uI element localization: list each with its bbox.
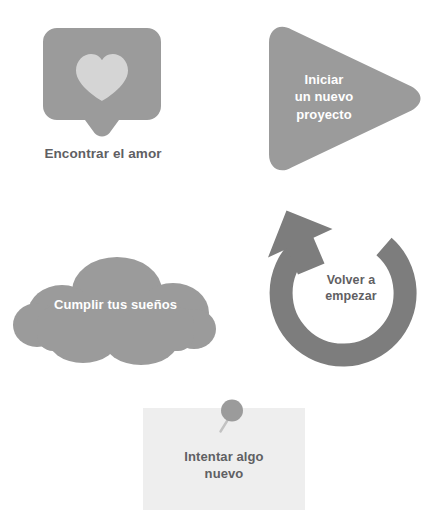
cloud-icon	[13, 255, 216, 365]
item-find-love-label: Encontrar el amor	[18, 146, 188, 161]
push-pin-icon	[211, 398, 245, 438]
item-dreams[interactable]: Cumplir tus sueños	[13, 255, 216, 365]
item-try-new[interactable]: Intentar algo nuevo	[143, 398, 305, 510]
item-find-love[interactable]	[43, 28, 161, 140]
circular-arrow-icon	[266, 208, 424, 366]
speech-bubble-heart-icon	[43, 28, 161, 140]
illustration-canvas: Encontrar el amor Iniciar un nuevo proye…	[0, 0, 443, 527]
play-triangle-icon	[269, 25, 421, 172]
item-start-over[interactable]: Volver a empezar	[266, 208, 424, 366]
item-new-project[interactable]: Iniciar un nuevo proyecto	[269, 25, 421, 172]
